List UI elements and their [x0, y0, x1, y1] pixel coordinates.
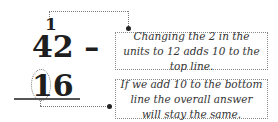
top-number: 42 –	[32, 31, 99, 63]
connector-2-across	[40, 106, 110, 107]
connector-1-across	[49, 11, 128, 12]
annotation-text-1: Changing the 2 in the units to 12 adds 1…	[120, 29, 263, 74]
annotation-text-2: If we add 10 to the bottom line the over…	[120, 77, 263, 122]
annotation-box-top-line: Changing the 2 in the units to 12 adds 1…	[115, 32, 268, 70]
answer-rule	[14, 98, 80, 100]
connector-2-dot	[107, 104, 112, 109]
annotation-box-bottom-line: If we add 10 to the bottom line the over…	[115, 79, 268, 119]
